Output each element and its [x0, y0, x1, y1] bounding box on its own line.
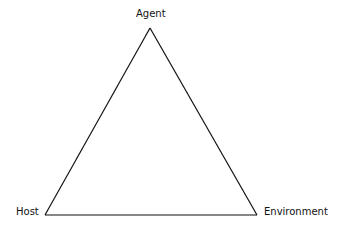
- node-label-environment: Environment: [264, 206, 328, 218]
- triangle-graphic: [0, 0, 339, 228]
- edge-agent-environment: [150, 28, 257, 215]
- node-label-agent: Agent: [136, 8, 166, 20]
- node-label-host: Host: [16, 206, 39, 218]
- edge-agent-host: [45, 28, 150, 215]
- agent-host-environment-diagram: Agent Host Environment: [0, 0, 339, 228]
